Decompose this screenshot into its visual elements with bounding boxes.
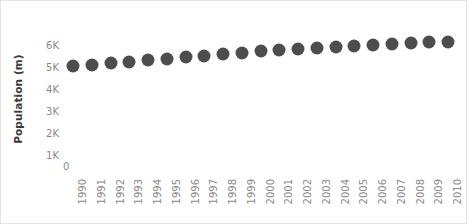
x-axis-tick-label: 2003 xyxy=(321,179,332,204)
x-axis-tick-label-text: 2003 xyxy=(321,179,332,204)
x-axis-tick-label: 2010 xyxy=(452,179,463,204)
x-axis-tick-label-text: 2006 xyxy=(377,179,388,204)
x-axis-tick-label-text: 1991 xyxy=(96,179,107,204)
x-axis-tick-label-text: 1992 xyxy=(115,179,126,204)
x-axis-tick-label: 1993 xyxy=(133,179,144,204)
x-axis-tick-label: 2004 xyxy=(340,179,351,204)
x-axis-tick-label: 1994 xyxy=(152,179,163,204)
x-axis-tick-label: 2001 xyxy=(283,179,294,204)
x-axis-tick-label-text: 2007 xyxy=(396,179,407,204)
x-axis-tick-label: 2008 xyxy=(415,179,426,204)
x-axis-tick-label: 2000 xyxy=(265,179,276,204)
x-axis-tick-label: 1995 xyxy=(171,179,182,204)
x-axis-tick-label: 1991 xyxy=(96,179,107,204)
x-axis-tick-label: 1999 xyxy=(246,179,257,204)
x-axis-tick-label-text: 1999 xyxy=(246,179,257,204)
x-axis-tick-label-text: 1998 xyxy=(227,179,238,204)
x-axis-tick-label: 1996 xyxy=(190,179,201,204)
x-axis-tick-label: 2002 xyxy=(302,179,313,204)
x-axis-tick-label-text: 2005 xyxy=(358,179,369,204)
x-axis-tick-label-text: 2001 xyxy=(283,179,294,204)
chart-container: Population (m) 1K2K3K4K5K6K 0 1990199119… xyxy=(0,0,467,224)
x-axis-tick-label: 2009 xyxy=(433,179,444,204)
x-axis-tick-label-text: 2000 xyxy=(265,179,276,204)
x-axis-tick-label-text: 1997 xyxy=(208,179,219,204)
x-axis-tick-label-text: 1994 xyxy=(152,179,163,204)
x-axis-tick-label-text: 1993 xyxy=(133,179,144,204)
x-axis-tick-label-text: 2002 xyxy=(302,179,313,204)
x-axis-tick-label: 2006 xyxy=(377,179,388,204)
x-axis-tick-label-text: 1995 xyxy=(171,179,182,204)
x-axis-tick-label: 2007 xyxy=(396,179,407,204)
x-axis-tick-labels: 1990199119921993199419951996199719981999… xyxy=(1,1,467,224)
x-axis-tick-label: 1997 xyxy=(208,179,219,204)
x-axis-tick-label: 1990 xyxy=(77,179,88,204)
x-axis-tick-label-text: 2010 xyxy=(452,179,463,204)
x-axis-tick-label-text: 1990 xyxy=(77,179,88,204)
x-axis-tick-label-text: 1996 xyxy=(190,179,201,204)
x-axis-tick-label: 1998 xyxy=(227,179,238,204)
x-axis-tick-label-text: 2004 xyxy=(340,179,351,204)
x-axis-tick-label: 1992 xyxy=(115,179,126,204)
x-axis-tick-label-text: 2008 xyxy=(415,179,426,204)
x-axis-tick-label: 2005 xyxy=(358,179,369,204)
x-axis-tick-label-text: 2009 xyxy=(433,179,444,204)
plot-area: Population (m) 1K2K3K4K5K6K 0 1990199119… xyxy=(1,1,467,224)
